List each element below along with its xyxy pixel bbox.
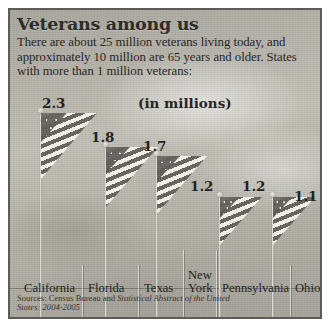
bar-value-label: 1.2	[242, 178, 266, 194]
label-separator	[290, 265, 291, 319]
x-axis-label-line: Ohio	[295, 282, 320, 295]
x-axis-label-line: New	[188, 269, 213, 282]
bar-value-label: 2.3	[42, 95, 66, 111]
bar-value-label: 1.8	[91, 129, 115, 145]
x-axis-label-new-york: NewYork	[188, 269, 213, 295]
american-flag-icon	[41, 113, 97, 179]
header-deck-text: There are about 25 million veterans livi…	[17, 35, 317, 79]
flag-bar-pennsylvania	[272, 195, 274, 317]
american-flag-icon	[273, 197, 315, 245]
american-flag-icon	[220, 197, 262, 245]
header-block: Veterans among us There are about 25 mil…	[17, 14, 317, 79]
units-caption: (in millions)	[138, 95, 232, 111]
infographic-panel: 2.3California1.8Florida1.7Texas1.2NewYor…	[8, 8, 322, 319]
source-note: Sources: Census Bureau and Statistical A…	[17, 294, 247, 313]
page-title: Veterans among us	[17, 14, 317, 34]
bar-value-label: 1.1	[294, 188, 318, 204]
x-axis-label-ohio: Ohio	[295, 282, 320, 295]
bar-value-label: 1.2	[190, 178, 214, 194]
source-prefix: Sources: Census Bureau and	[17, 293, 117, 303]
bar-value-label: 1.7	[143, 138, 167, 154]
american-flag-icon	[106, 147, 158, 207]
